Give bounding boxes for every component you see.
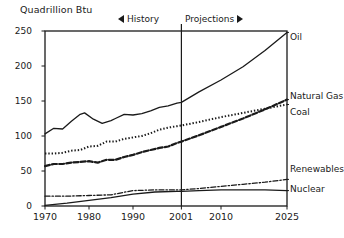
series-line-oil <box>45 32 287 133</box>
plot-frame <box>45 31 287 206</box>
axis-tick-marks <box>42 31 288 210</box>
series-line-natural-gas <box>45 100 287 167</box>
series-line-renewables <box>45 179 287 196</box>
energy-consumption-chart: Quadrillion Btu History Projections 250 … <box>0 0 344 238</box>
series-paths <box>45 32 289 205</box>
plot-area <box>0 0 344 238</box>
series-line-nuclear <box>45 190 287 205</box>
